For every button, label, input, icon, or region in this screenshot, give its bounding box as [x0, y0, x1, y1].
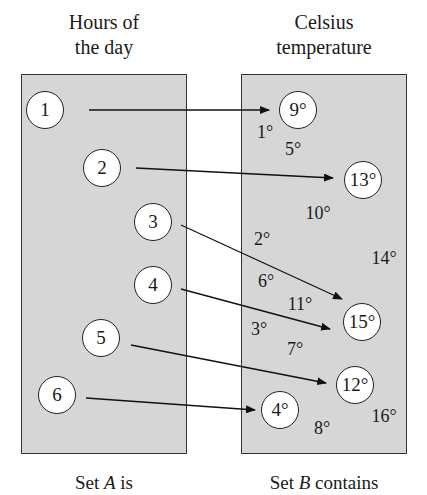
set-b-value-14: 14° — [371, 248, 396, 269]
set-b-value-5: 5° — [285, 139, 301, 160]
element-label: 13° — [350, 169, 377, 191]
set-a-element-5: 5 — [82, 319, 120, 357]
arrow-6-to-4 — [86, 398, 255, 410]
element-label: 2 — [97, 157, 107, 179]
element-label: 15° — [349, 311, 376, 333]
set-b-value-7: 7° — [287, 339, 303, 360]
element-label: 12° — [342, 374, 369, 396]
set-b-value-6: 6° — [258, 271, 274, 292]
caption-text: Set A is — [75, 472, 133, 493]
element-label: 1 — [40, 99, 50, 121]
set-b-value-3: 3° — [251, 319, 267, 340]
set-b-value-2: 2° — [254, 229, 270, 250]
set-b-circled-4: 4° — [261, 391, 299, 429]
set-b-circled-12: 12° — [336, 366, 374, 404]
set-a-element-4: 4 — [134, 266, 172, 304]
set-b-caption: Set B contains — [224, 472, 424, 494]
set-b-value-8: 8° — [314, 418, 330, 439]
element-label: 6 — [52, 384, 62, 406]
set-a-element-1: 1 — [26, 91, 64, 129]
caption-text: Set B contains — [270, 472, 379, 493]
set-b-circled-9: 9° — [279, 91, 317, 129]
set-a-caption: Set A is — [4, 472, 204, 494]
set-b-value-10: 10° — [305, 203, 330, 224]
set-a-element-2: 2 — [83, 149, 121, 187]
element-label: 4 — [148, 274, 158, 296]
arrow-2-to-13 — [136, 168, 333, 178]
set-b-value-16: 16° — [371, 406, 396, 427]
set-b-value-11: 11° — [288, 294, 313, 315]
set-a-element-6: 6 — [38, 376, 76, 414]
element-label: 9° — [289, 99, 306, 121]
element-label: 4° — [271, 399, 288, 421]
element-label: 5 — [96, 327, 106, 349]
mapping-arrows — [0, 0, 427, 495]
set-b-value-1: 1° — [257, 122, 273, 143]
set-a-element-3: 3 — [134, 203, 172, 241]
set-b-circled-13: 13° — [344, 161, 382, 199]
set-b-circled-15: 15° — [343, 303, 381, 341]
element-label: 3 — [148, 211, 158, 233]
